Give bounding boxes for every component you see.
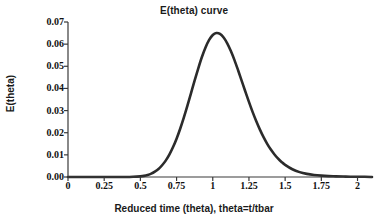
data-curve-layer <box>68 22 372 177</box>
y-tick-label-2: 0.02 <box>26 128 64 138</box>
y-axis-title: E(theta) <box>5 54 16 134</box>
series-line-e-theta <box>68 33 372 177</box>
x-tick-label-8: 2 <box>333 181 383 191</box>
x-axis-title: Reduced time (theta), theta=t/tbar <box>0 203 388 214</box>
y-tick-label-7: 0.07 <box>26 17 64 27</box>
y-tick-label-6: 0.06 <box>26 39 64 49</box>
y-tick-label-5: 0.05 <box>26 61 64 71</box>
y-tick-label-3: 0.03 <box>26 106 64 116</box>
y-tick-label-4: 0.04 <box>26 83 64 93</box>
plot-area <box>68 22 372 177</box>
chart-figure: E(theta) curve E(theta) 0.000.010.020.03… <box>0 0 388 224</box>
y-tick-label-1: 0.01 <box>26 150 64 160</box>
x-axis-tick-labels: 00.250.50.7511.251.51.752 <box>0 181 388 195</box>
